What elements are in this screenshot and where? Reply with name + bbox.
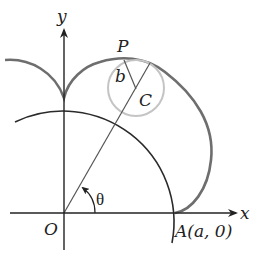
point-p-label: P <box>116 36 129 56</box>
point-a-label: A(a, 0) <box>173 221 232 241</box>
epicycloid-diagram: y x O P b C θ A(a, 0) <box>0 0 264 258</box>
origin-label: O <box>44 219 58 239</box>
fixed-circle-arc <box>15 111 174 243</box>
x-axis-label: x <box>240 203 250 223</box>
y-axis-label: y <box>56 6 67 26</box>
ray-o-to-c <box>64 63 150 213</box>
angle-theta-label: θ <box>96 190 104 209</box>
radius-b-label: b <box>115 66 126 86</box>
center-c-label: C <box>139 90 152 110</box>
angle-arc-icon <box>83 188 95 213</box>
